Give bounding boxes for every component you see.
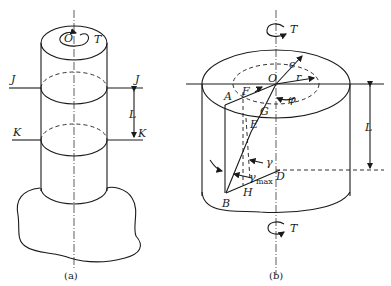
figure-a: O T J J K K L (a) — [9, 10, 147, 281]
label-l-a: L — [128, 108, 136, 121]
label-o: O — [64, 32, 73, 45]
label-e: E — [249, 118, 258, 131]
label-h: H — [242, 186, 253, 199]
label-c: c — [289, 58, 295, 71]
caption-a: (a) — [64, 270, 78, 281]
label-gamma: γ — [266, 156, 273, 169]
torque-top-arrow-icon — [267, 24, 286, 36]
gamma-arrow — [250, 160, 263, 163]
label-t-top: T — [290, 23, 299, 36]
label-k-left: K — [12, 126, 22, 139]
label-k-right: K — [137, 127, 147, 140]
label-o-b: O — [268, 72, 277, 85]
label-j-right: J — [133, 73, 140, 86]
fixed-support — [17, 187, 140, 261]
label-d: D — [275, 170, 285, 183]
figure-b: T O c r φ A — [186, 10, 384, 281]
label-l-b: L — [364, 121, 372, 134]
label-gamma-max-sub: max — [256, 177, 273, 186]
label-t: T — [94, 33, 103, 46]
label-phi: φ — [288, 93, 296, 106]
line-o-a — [225, 84, 276, 105]
label-j-left: J — [9, 73, 16, 86]
label-t-bottom: T — [290, 222, 299, 235]
label-gamma-max: γ — [249, 171, 256, 184]
caption-b: (b) — [269, 270, 283, 281]
label-g: G — [260, 105, 269, 118]
label-r: r — [296, 71, 302, 84]
radius-r — [276, 78, 314, 84]
label-b: B — [221, 197, 230, 210]
left-side-arrow — [210, 160, 222, 171]
torsion-diagram: O T J J K K L (a) T — [0, 0, 391, 286]
label-a: A — [223, 90, 232, 103]
label-f: F — [241, 85, 250, 98]
